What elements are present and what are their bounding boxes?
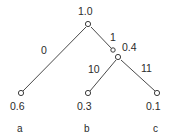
leaf-b-probability-label: 0.3 [77, 101, 92, 112]
node-edge-marker-circle [111, 48, 115, 52]
edge-label-1: 1 [110, 32, 116, 43]
internal-node-probability-label: 0.4 [122, 42, 137, 53]
node-root-circle [85, 21, 90, 26]
node-leaf-b-circle [85, 90, 90, 95]
leaf-c-symbol-label: c [153, 123, 158, 134]
edge-root-to-leaf-a [23, 27, 86, 91]
node-internal-right-circle [115, 54, 120, 59]
edge-root-to-internal-node [91, 27, 112, 49]
root-probability-label: 1.0 [78, 6, 93, 17]
leaf-a-probability-label: 0.6 [10, 101, 25, 112]
code-tree-diagram: 1.0 0.4 0 1 10 11 0.6 0.3 0.1 a b c [0, 0, 173, 140]
leaf-c-probability-label: 0.1 [146, 101, 161, 112]
leaf-b-symbol-label: b [84, 123, 90, 134]
leaf-a-symbol-label: a [17, 123, 23, 134]
edge-label-11: 11 [141, 63, 152, 74]
edge-label-10: 10 [88, 64, 100, 75]
edge-label-0: 0 [41, 45, 47, 56]
node-leaf-a-circle [18, 90, 23, 95]
node-leaf-c-circle [154, 90, 159, 95]
